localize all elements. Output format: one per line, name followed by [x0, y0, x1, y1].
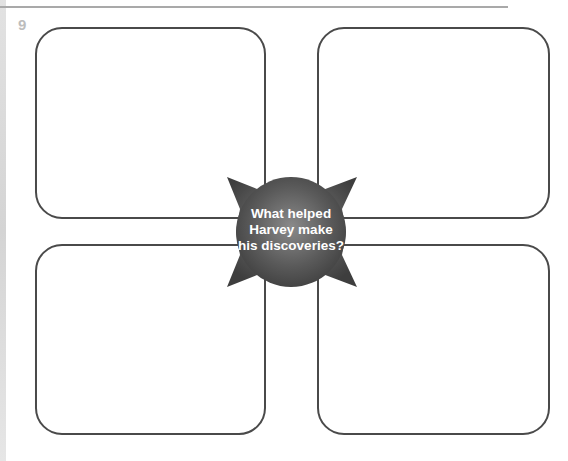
- answer-box-bottom-left[interactable]: [36, 245, 265, 434]
- central-question-line: Harvey make: [231, 222, 351, 238]
- central-question-line: his discoveries?: [231, 238, 351, 254]
- central-question: What helped Harvey make his discoveries?: [231, 206, 351, 254]
- answer-box-top-right[interactable]: [318, 28, 549, 218]
- answer-box-top-left[interactable]: [36, 28, 265, 218]
- answer-box-bottom-right[interactable]: [318, 245, 549, 434]
- central-question-line: What helped: [231, 206, 351, 222]
